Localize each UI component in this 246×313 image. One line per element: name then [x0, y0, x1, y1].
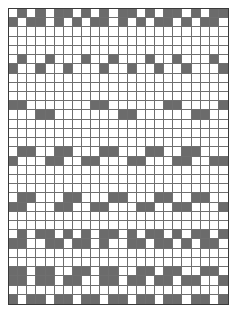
grid-cell: [9, 295, 18, 304]
grid-cell: [164, 286, 173, 295]
grid-cell: [164, 239, 173, 248]
grid-cell: [219, 230, 228, 239]
grid-cell: [46, 276, 55, 285]
grid-cell: [119, 249, 128, 258]
grid-cell: [219, 221, 228, 230]
grid-cell: [201, 157, 210, 166]
grid-cell: [82, 147, 91, 156]
grid-cell: [210, 203, 219, 212]
grid-cell: [27, 286, 36, 295]
grid-cell: [36, 221, 45, 230]
grid-cell: [173, 46, 182, 55]
grid-cell: [64, 184, 73, 193]
grid-cell: [155, 147, 164, 156]
grid-cell: [128, 92, 137, 101]
grid-cell: [55, 286, 64, 295]
grid-cell: [146, 74, 155, 83]
grid-cell: [128, 166, 137, 175]
grid-cell: [100, 212, 109, 221]
grid-cell: [119, 147, 128, 156]
grid-cell: [146, 166, 155, 175]
grid-cell: [155, 138, 164, 147]
grid-cell: [192, 27, 201, 36]
grid-cell: [18, 184, 27, 193]
grid-cell: [210, 37, 219, 46]
grid-cell: [146, 37, 155, 46]
grid-cell: [137, 147, 146, 156]
grid-cell: [155, 27, 164, 36]
grid-cell: [73, 193, 82, 202]
grid-cell: [27, 203, 36, 212]
grid-cell: [64, 18, 73, 27]
grid-cell: [201, 110, 210, 119]
grid-cell: [64, 120, 73, 129]
grid-cell: [109, 193, 118, 202]
grid-cell: [201, 276, 210, 285]
grid-cell: [164, 258, 173, 267]
grid-cell: [219, 193, 228, 202]
grid-cell: [128, 212, 137, 221]
grid-cell: [119, 175, 128, 184]
grid-cell: [119, 295, 128, 304]
grid-cell: [73, 157, 82, 166]
grid-cell: [27, 74, 36, 83]
grid-cell: [46, 221, 55, 230]
grid-cell: [219, 64, 228, 73]
grid-cell: [9, 37, 18, 46]
grid-cell: [182, 55, 191, 64]
grid-cell: [36, 64, 45, 73]
grid-cell: [201, 212, 210, 221]
grid-cell: [82, 230, 91, 239]
grid-cell: [109, 129, 118, 138]
grid-cell: [192, 37, 201, 46]
grid-cell: [155, 37, 164, 46]
grid-cell: [182, 249, 191, 258]
grid-cell: [55, 295, 64, 304]
grid-cell: [46, 166, 55, 175]
grid-cell: [27, 138, 36, 147]
grid-cell: [201, 101, 210, 110]
grid-cell: [192, 55, 201, 64]
grid-cell: [201, 74, 210, 83]
grid-cell: [182, 74, 191, 83]
grid-cell: [27, 193, 36, 202]
grid-cell: [73, 46, 82, 55]
grid-cell: [219, 74, 228, 83]
grid-cell: [109, 27, 118, 36]
grid-cell: [64, 9, 73, 18]
grid-cell: [192, 267, 201, 276]
grid-cell: [36, 110, 45, 119]
grid-cell: [146, 221, 155, 230]
grid-cell: [18, 166, 27, 175]
grid-cell: [173, 203, 182, 212]
grid-cell: [119, 129, 128, 138]
grid-cell: [27, 64, 36, 73]
grid-cell: [155, 295, 164, 304]
grid-cell: [9, 166, 18, 175]
grid-cell: [18, 27, 27, 36]
grid-cell: [210, 175, 219, 184]
grid-cell: [164, 166, 173, 175]
grid-cell: [128, 27, 137, 36]
grid-cell: [46, 267, 55, 276]
grid-cell: [9, 258, 18, 267]
grid-cell: [36, 295, 45, 304]
grid-cell: [109, 157, 118, 166]
grid-cell: [155, 203, 164, 212]
grid-cell: [192, 9, 201, 18]
grid-cell: [18, 212, 27, 221]
grid-cell: [55, 55, 64, 64]
grid-cell: [36, 129, 45, 138]
grid-cell: [219, 203, 228, 212]
grid-cell: [109, 184, 118, 193]
grid-cell: [128, 239, 137, 248]
grid-cell: [155, 286, 164, 295]
grid-cell: [82, 184, 91, 193]
grid-cell: [219, 27, 228, 36]
grid-cell: [64, 166, 73, 175]
grid-cell: [128, 286, 137, 295]
grid-cell: [146, 147, 155, 156]
grid-cell: [55, 267, 64, 276]
grid-cell: [91, 249, 100, 258]
grid-cell: [36, 37, 45, 46]
